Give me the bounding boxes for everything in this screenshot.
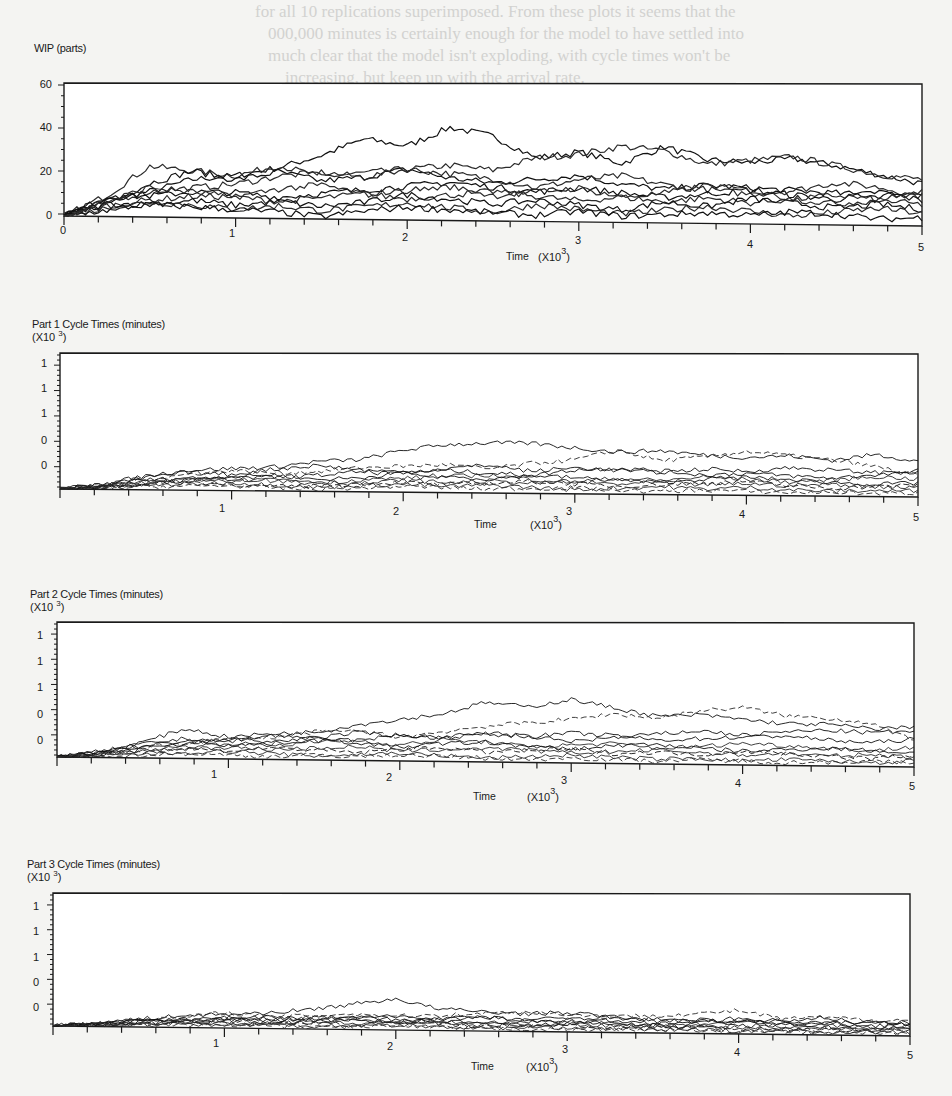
part3-xtick-1: 1: [213, 1037, 219, 1049]
part3-x-axis-label: Time: [471, 1060, 494, 1072]
part3-xtick-2: 2: [387, 1040, 393, 1052]
part3-chart: Part 3 Cycle Times (minutes) (X10 3) 1 1…: [0, 0, 952, 1096]
part3-x-multiplier: (X103): [526, 1058, 558, 1073]
part3-xtick-5: 5: [907, 1049, 913, 1061]
part3-plot-area: [0, 0, 952, 1096]
part3-xtick-3: 3: [562, 1043, 568, 1055]
part3-xtick-4: 4: [734, 1046, 740, 1058]
